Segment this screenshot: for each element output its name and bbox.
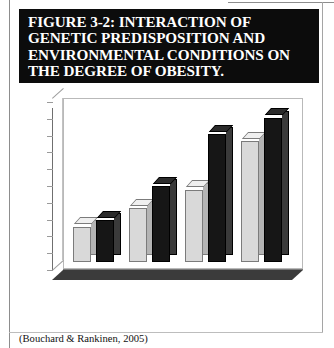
- bar-light: [129, 208, 147, 262]
- bar-dark: [152, 186, 170, 262]
- chart-floor: [52, 270, 303, 280]
- figure-title-block: FIGURE 3-2: INTERACTION OF GENETIC PREDI…: [19, 9, 319, 83]
- page-left-rule: [9, 0, 10, 348]
- y-axis-tick: [47, 270, 53, 271]
- bar-face: [264, 118, 282, 262]
- bar-dark: [96, 220, 114, 262]
- axis-top-connector: [52, 98, 63, 109]
- y-axis-tick: [47, 136, 53, 137]
- bar-face: [73, 227, 91, 262]
- figure-card: Body Mass Index Genetically resistantSli…: [19, 86, 319, 332]
- bar-side: [282, 111, 289, 255]
- axis-bottom-connector: [52, 260, 63, 271]
- bar-chart: Body Mass Index: [39, 90, 311, 272]
- y-axis-tick: [47, 220, 53, 221]
- y-axis-tick: [47, 119, 53, 120]
- bar-face: [241, 141, 259, 262]
- y-axis-tick: [47, 186, 53, 187]
- y-axis-tick: [47, 253, 53, 254]
- bar-dark: [208, 134, 226, 262]
- y-axis-line: [52, 108, 53, 270]
- bar-dark: [264, 118, 282, 262]
- figure-citation: (Bouchard & Rankinen, 2005): [19, 333, 148, 344]
- figure-page: FIGURE 3-2: INTERACTION OF GENETIC PREDI…: [0, 0, 334, 348]
- y-axis-tick: [47, 169, 53, 170]
- bar-side: [170, 179, 177, 255]
- bar-light: [241, 141, 259, 262]
- chart-baseline: [63, 269, 303, 270]
- bar-light: [185, 190, 203, 262]
- bar-face: [208, 134, 226, 262]
- y-axis-tick: [47, 203, 53, 204]
- bar-face: [185, 190, 203, 262]
- bar-face: [152, 186, 170, 262]
- bar-face: [96, 220, 114, 262]
- figure-title: FIGURE 3-2: INTERACTION OF GENETIC PREDI…: [28, 14, 319, 80]
- y-axis-tick: [47, 236, 53, 237]
- bar-side: [114, 213, 121, 255]
- page-right-rule: [322, 2, 323, 332]
- y-axis-tick: [47, 102, 53, 103]
- bar-face: [129, 208, 147, 262]
- page-top-rule: [228, 2, 334, 3]
- bar-light: [73, 227, 91, 262]
- y-axis-inner-line: [62, 98, 63, 260]
- bar-side: [226, 127, 233, 255]
- y-axis-tick: [47, 152, 53, 153]
